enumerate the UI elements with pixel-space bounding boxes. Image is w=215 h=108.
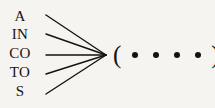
- close-paren: ): [211, 42, 215, 67]
- open-paren: (: [113, 42, 121, 67]
- dot-list: [124, 52, 208, 58]
- converging-line: [46, 55, 106, 94]
- dot: [195, 52, 201, 58]
- converging-line: [46, 15, 106, 55]
- dot-group: ( ): [113, 41, 215, 69]
- converging-line: [46, 55, 106, 74]
- fan-in-diagram: A IN CO TO S ( ): [0, 0, 215, 108]
- dot: [174, 52, 180, 58]
- dot: [153, 52, 159, 58]
- converging-line: [46, 34, 106, 55]
- dot: [132, 52, 138, 58]
